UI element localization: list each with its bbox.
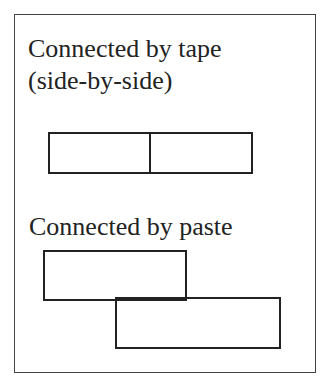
paste-label: Connected by paste [29,212,233,242]
paste-strip-upper [43,250,187,301]
tape-strip-left [48,132,152,174]
tape-label-line1: Connected by tape [28,34,222,64]
tape-strip-right [149,132,253,174]
tape-label-line2: (side-by-side) [28,66,172,96]
paste-strip-lower [115,297,281,349]
